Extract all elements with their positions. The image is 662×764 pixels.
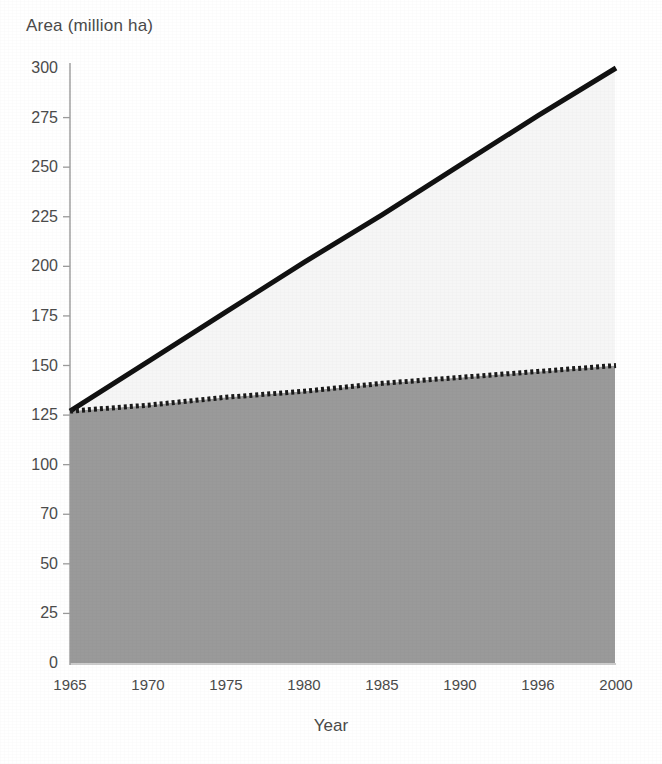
x-axis-tick-label: 1975: [209, 676, 242, 693]
x-axis-title: Year: [0, 716, 662, 736]
x-axis-tick-label: 1965: [53, 676, 86, 693]
y-axis-tick-marks: [63, 118, 70, 614]
x-axis-tick-label: 1970: [131, 676, 164, 693]
x-axis-tick-label: 1985: [365, 676, 398, 693]
x-axis-tick-label: 1990: [443, 676, 476, 693]
x-axis-tick-label: 1980: [287, 676, 320, 693]
x-axis-tick-labels: 19651970197519801985199019962000: [0, 676, 662, 702]
x-axis-tick-label: 2000: [599, 676, 632, 693]
lower-area-fill: [70, 366, 616, 664]
chart-plot-area: [0, 0, 662, 764]
area-chart-figure: Area (million ha) 0255070100125150175200…: [0, 0, 662, 764]
x-axis-tick-label: 1996: [521, 676, 554, 693]
